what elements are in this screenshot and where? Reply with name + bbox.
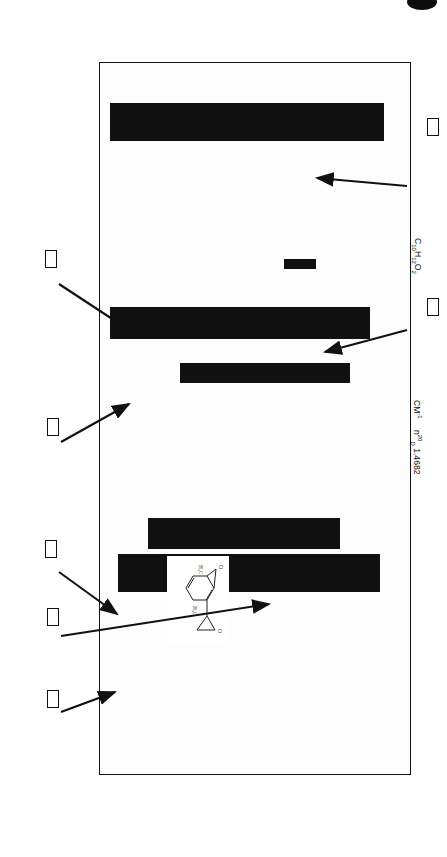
annotation-nu-s-sat-ring xyxy=(427,298,439,316)
spectrogram-page: C10H12O2 n20D 1.4682 CM-1 xyxy=(0,0,447,857)
svg-text:H₃C: H₃C xyxy=(192,606,198,616)
refractive-index: n20D 1.4682 xyxy=(410,430,423,475)
svg-text:O: O xyxy=(217,629,223,634)
structure-diagram: O O H₃C H₃C xyxy=(167,556,229,644)
annotation-delta-as-CH3 xyxy=(45,250,57,268)
wavenumber-unit-label: CM-1 xyxy=(412,400,423,419)
svg-text:H₃C: H₃C xyxy=(198,565,204,575)
annotation-nu-as-sat-ring xyxy=(427,118,439,136)
formula-label: C10H12O2 xyxy=(411,238,423,274)
spectrogram-sheet: C10H12O2 n20D 1.4682 CM-1 xyxy=(0,0,447,857)
spectrum-plot xyxy=(99,62,411,775)
molecular-structure-inset: O O H₃C H₃C xyxy=(167,556,229,644)
absorption-band-fills xyxy=(110,103,384,592)
spectrum-trace xyxy=(99,63,410,775)
annotation-nu-prime-C-C xyxy=(47,418,59,436)
svg-text:O: O xyxy=(218,565,224,570)
annotation-nu-CH3-CH2 xyxy=(45,540,57,558)
annotation-delta-prime-sat-ring xyxy=(47,608,59,626)
annotation-nu-eq-CH xyxy=(47,690,59,708)
